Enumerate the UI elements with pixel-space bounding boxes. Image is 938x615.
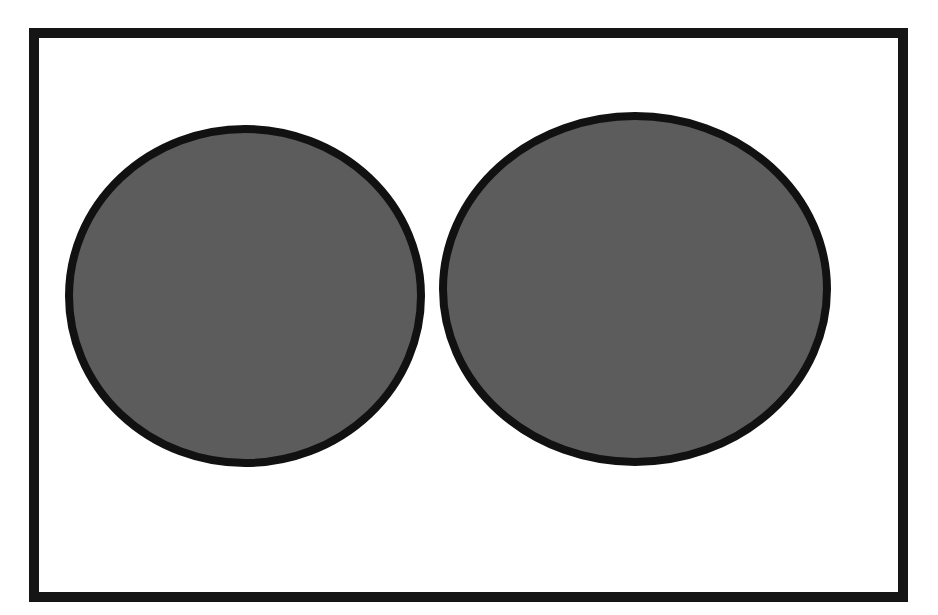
diagram-canvas [0, 0, 938, 615]
left-set-circle [69, 129, 421, 463]
right-set-ellipse [443, 116, 827, 462]
